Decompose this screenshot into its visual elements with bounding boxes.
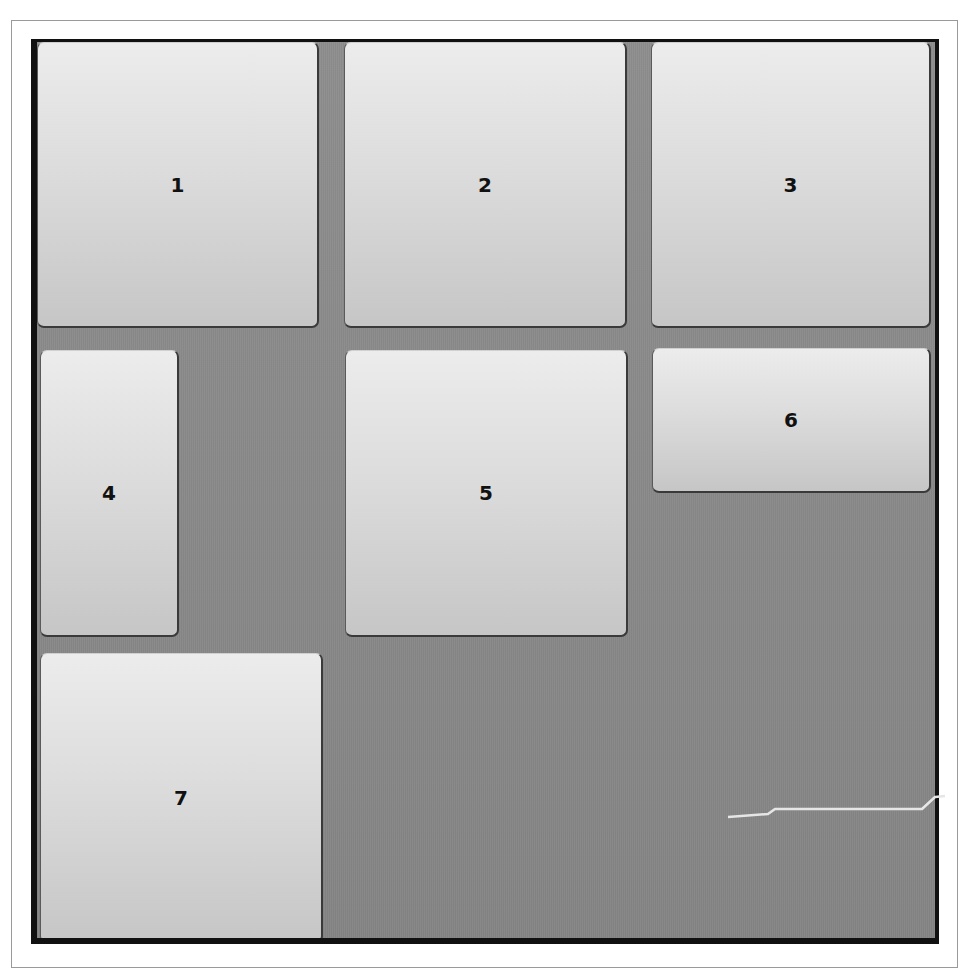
tile-3[interactable]: 3 <box>651 42 931 328</box>
tile-1[interactable]: 1 <box>37 42 319 328</box>
tile-6[interactable]: 6 <box>652 348 931 493</box>
tile-label: 5 <box>479 481 493 505</box>
tile-4[interactable]: 4 <box>40 350 179 637</box>
tile-label: 7 <box>174 786 188 810</box>
tile-label: 4 <box>102 481 116 505</box>
tile-2[interactable]: 2 <box>344 42 627 328</box>
tile-label: 6 <box>784 408 798 432</box>
tile-5[interactable]: 5 <box>345 350 628 637</box>
tile-label: 2 <box>478 173 492 197</box>
tile-7[interactable]: 7 <box>40 653 323 943</box>
puzzle-board: 1 2 3 4 5 6 7 <box>31 39 939 944</box>
tile-label: 1 <box>171 173 185 197</box>
tile-label: 3 <box>784 173 798 197</box>
